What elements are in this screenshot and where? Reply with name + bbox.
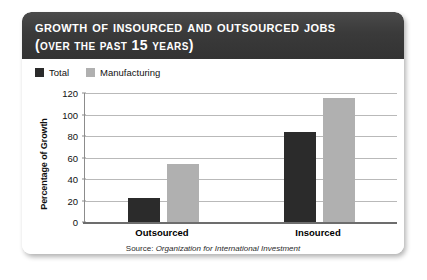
chart-body: TotalManufacturing Percentage of Growth … bbox=[22, 59, 404, 254]
plot-area bbox=[84, 93, 397, 222]
y-tick-label: 100 bbox=[62, 109, 78, 120]
y-axis-ticks: 020406080100120 bbox=[56, 93, 82, 222]
y-axis-label: Percentage of Growth bbox=[39, 104, 49, 224]
x-axis-line bbox=[83, 222, 397, 224]
x-category-label: Outsourced bbox=[135, 227, 188, 238]
chart-title: Growth of Insourced and Outsourced Jobs bbox=[35, 18, 404, 36]
source-organization: Organization for International Investmen… bbox=[156, 244, 301, 253]
y-tick-label: 20 bbox=[67, 195, 78, 206]
source-prefix: Source: bbox=[126, 244, 154, 253]
bar-outsourced-total[interactable] bbox=[128, 198, 160, 222]
y-tick-label: 80 bbox=[67, 131, 78, 142]
y-tick-label: 120 bbox=[62, 88, 78, 99]
bar-insourced-manufacturing[interactable] bbox=[323, 98, 355, 222]
y-tick-label: 0 bbox=[73, 217, 78, 228]
gridline bbox=[85, 93, 397, 94]
bar-outsourced-manufacturing[interactable] bbox=[167, 164, 199, 222]
bar-insourced-total[interactable] bbox=[284, 132, 316, 222]
source-note: Source: Organization for International I… bbox=[22, 244, 404, 253]
x-category-label: Insourced bbox=[295, 227, 340, 238]
chart-card: Growth of Insourced and Outsourced Jobs … bbox=[22, 12, 404, 254]
y-tick-label: 40 bbox=[67, 174, 78, 185]
chart-subtitle: (over the past 15 years) bbox=[35, 36, 404, 54]
plot-wrapper: Percentage of Growth 020406080100120 Out… bbox=[22, 59, 404, 254]
chart-header: Growth of Insourced and Outsourced Jobs … bbox=[22, 12, 404, 59]
y-tick-label: 60 bbox=[67, 152, 78, 163]
